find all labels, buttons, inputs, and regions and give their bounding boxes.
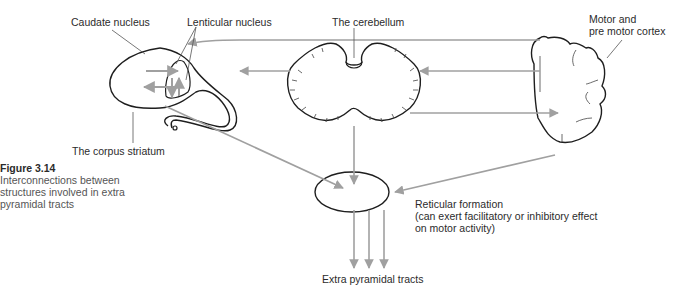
caudate-nucleus-label: Caudate nucleus — [71, 16, 150, 28]
cerebellum-label: The cerebellum — [332, 16, 404, 28]
reticular-formation-shape — [315, 172, 389, 212]
corpus-striatum-shape — [110, 48, 237, 131]
striatum-internal-arrows — [144, 71, 179, 97]
extra-pyramidal-tracts-label: Extra pyramidal tracts — [322, 273, 424, 285]
lenticular-nucleus-label: Lenticular nucleus — [187, 16, 272, 28]
corpus-striatum-label: The corpus striatum — [72, 145, 165, 157]
motor-cortex-label-line2: pre motor cortex — [589, 25, 665, 37]
reticular-formation-label-line1: Reticular formation — [415, 198, 503, 210]
figure-number: Figure 3.14 — [0, 162, 130, 174]
motor-cortex-shape — [532, 37, 606, 143]
motor-cortex-label-line1: Motor and — [589, 13, 636, 25]
diagram-canvas — [0, 0, 694, 286]
reticular-formation-label-line3: on motor activity) — [415, 222, 495, 234]
figure-caption: Figure 3.14 Interconnections between str… — [0, 162, 130, 210]
reticular-formation-label-line2: (can exert facilitatory or inhibitory ef… — [415, 210, 597, 222]
figure-caption-text: Interconnections between structures invo… — [0, 174, 130, 210]
